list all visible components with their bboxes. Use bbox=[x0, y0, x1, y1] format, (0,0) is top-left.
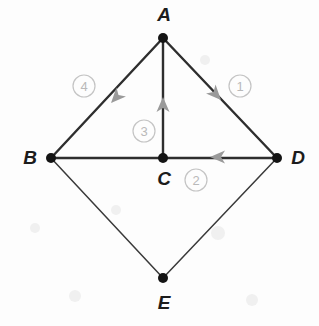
vertex-dot-e bbox=[158, 273, 168, 283]
scan-noise bbox=[30, 55, 258, 306]
marker-3: 3 bbox=[133, 120, 155, 142]
marker-2: 2 bbox=[185, 169, 207, 191]
vertex-label-b: B bbox=[23, 147, 37, 168]
edge-e-d bbox=[163, 158, 277, 278]
arrowhead-group bbox=[106, 85, 226, 164]
figure-canvas: A B C D E 1 2 3 4 bbox=[0, 0, 319, 326]
vertex-label-a: A bbox=[156, 4, 171, 25]
arrow-on-edge-4 bbox=[106, 88, 126, 108]
vertex-label-d: D bbox=[291, 147, 305, 168]
geometry-figure: A B C D E 1 2 3 4 bbox=[0, 0, 319, 326]
marker-4: 4 bbox=[73, 75, 95, 97]
edge-group-thick bbox=[51, 38, 277, 158]
marker-1-text: 1 bbox=[236, 79, 243, 94]
vertex-dot-b bbox=[46, 153, 56, 163]
edge-a-b bbox=[51, 38, 163, 158]
vertex-dot-a bbox=[158, 33, 168, 43]
edge-b-e bbox=[51, 158, 163, 278]
marker-2-text: 2 bbox=[192, 173, 199, 188]
marker-4-text: 4 bbox=[80, 79, 87, 94]
marker-1: 1 bbox=[229, 75, 251, 97]
vertex-label-e: E bbox=[158, 292, 172, 313]
vertex-dot-d bbox=[272, 153, 282, 163]
vertex-dot-c bbox=[158, 153, 168, 163]
marker-3-text: 3 bbox=[140, 124, 147, 139]
vertex-label-c: C bbox=[157, 168, 171, 189]
